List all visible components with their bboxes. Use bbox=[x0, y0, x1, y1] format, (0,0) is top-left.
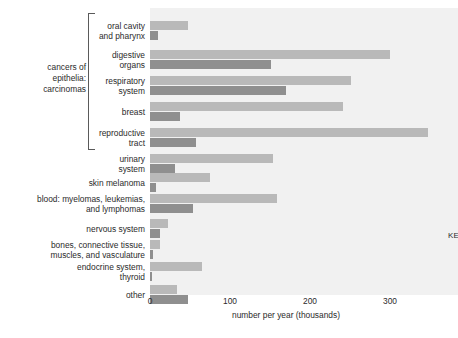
bar-deaths bbox=[150, 272, 152, 281]
category-label: bones, connective tissue, muscles, and v… bbox=[2, 240, 150, 261]
x-axis-tick-label: 300 bbox=[383, 296, 397, 306]
category-label: breast bbox=[2, 107, 150, 117]
bar-new-cases bbox=[150, 76, 351, 85]
category-label: digestive organs bbox=[2, 50, 150, 71]
bar-new-cases bbox=[150, 21, 188, 30]
bar-new-cases bbox=[150, 194, 277, 203]
bar-deaths bbox=[150, 164, 175, 173]
bar-new-cases bbox=[150, 219, 168, 228]
legend-title: KEY: bbox=[448, 231, 458, 240]
x-axis-tick-label: 100 bbox=[223, 296, 237, 306]
bar-new-cases bbox=[150, 240, 160, 249]
bar-deaths bbox=[150, 250, 153, 259]
bar-deaths bbox=[150, 229, 160, 238]
bar-new-cases bbox=[150, 262, 202, 271]
category-label: skin melanoma bbox=[2, 178, 150, 188]
bar-new-cases bbox=[150, 128, 428, 137]
x-axis-ticks: 0100200300 bbox=[150, 296, 458, 310]
category-label: endocrine system, thyroid bbox=[2, 262, 150, 283]
bar-new-cases bbox=[150, 285, 177, 294]
x-axis-title: number per year (thousands) bbox=[150, 310, 458, 320]
category-label: urinary system bbox=[2, 154, 150, 175]
category-label: oral cavity and pharynx bbox=[2, 21, 150, 42]
bar-new-cases bbox=[150, 154, 273, 163]
x-axis-tick-label: 0 bbox=[148, 296, 153, 306]
bar-deaths bbox=[150, 31, 158, 40]
category-label: blood: myelomas, leukemias, and lymphoma… bbox=[2, 194, 150, 215]
bar-deaths bbox=[150, 138, 196, 147]
category-label: other bbox=[2, 290, 150, 300]
bar-deaths bbox=[150, 86, 286, 95]
bar-deaths bbox=[150, 60, 271, 69]
bar-deaths bbox=[150, 112, 180, 121]
bar-new-cases bbox=[150, 50, 390, 59]
bar-deaths bbox=[150, 204, 193, 213]
bar-new-cases bbox=[150, 173, 210, 182]
plot-area: KEY: new cases deaths/year bbox=[150, 8, 458, 295]
category-label: reproductive tract bbox=[2, 128, 150, 149]
legend: KEY: new cases deaths/year bbox=[448, 227, 458, 244]
category-labels: oral cavity and pharynxdigestive organsr… bbox=[0, 8, 150, 295]
category-label: nervous system bbox=[2, 224, 150, 234]
chart-figure: cancers of epithelia: carcinomas oral ca… bbox=[0, 0, 458, 338]
bar-new-cases bbox=[150, 102, 343, 111]
x-axis-tick-label: 200 bbox=[303, 296, 317, 306]
bar-deaths bbox=[150, 183, 156, 192]
category-label: respiratory system bbox=[2, 76, 150, 97]
